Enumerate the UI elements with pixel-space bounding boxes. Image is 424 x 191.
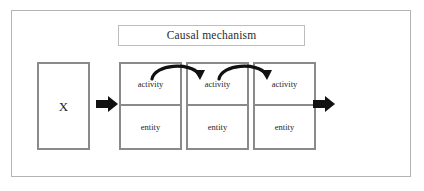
- causal-mechanism-diagram: Causal mechanism X activity entity activ…: [0, 0, 424, 191]
- mechanism-part-3-entity-label: entity: [275, 123, 294, 132]
- mechanism-part-1: activity entity: [119, 62, 182, 150]
- cause-variable-box-x: X: [37, 62, 90, 150]
- causal-mechanism-title-label: Causal mechanism: [167, 30, 257, 42]
- cause-variable-label: X: [59, 100, 68, 113]
- causal-mechanism-title-box: Causal mechanism: [118, 25, 305, 46]
- mechanism-part-1-activity-cell: activity: [121, 64, 180, 106]
- mechanism-part-3: activity entity: [253, 62, 316, 150]
- mechanism-part-1-entity-label: entity: [141, 123, 160, 132]
- mechanism-part-2-activity-cell: activity: [188, 64, 247, 106]
- mechanism-part-3-entity-cell: entity: [255, 106, 314, 148]
- mechanism-part-2-entity-cell: entity: [188, 106, 247, 148]
- mechanism-part-2-entity-label: entity: [208, 123, 227, 132]
- mechanism-part-3-activity-label: activity: [272, 80, 298, 89]
- mechanism-part-3-activity-cell: activity: [255, 64, 314, 106]
- mechanism-part-2: activity entity: [186, 62, 249, 150]
- mechanism-part-1-entity-cell: entity: [121, 106, 180, 148]
- mechanism-part-1-activity-label: activity: [138, 80, 164, 89]
- mechanism-part-2-activity-label: activity: [205, 80, 231, 89]
